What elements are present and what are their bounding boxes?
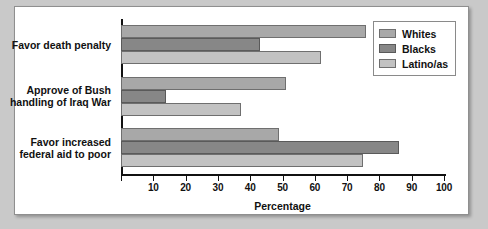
category-label-line: handling of Iraq War: [0, 96, 111, 108]
x-axis-line: [121, 174, 446, 176]
bar-blacks: [121, 38, 260, 51]
x-tick-label-90: 90: [397, 182, 427, 193]
bar-whites: [121, 77, 286, 90]
legend-label: Blacks: [402, 43, 436, 55]
x-tick-90: [412, 176, 413, 181]
category-label-line: Favor increased: [0, 136, 111, 148]
x-tick-60: [315, 176, 316, 181]
legend-swatch-icon: [379, 29, 396, 38]
x-tick-label-80: 80: [364, 182, 394, 193]
bar-blacks: [121, 90, 166, 103]
bar-blacks: [121, 141, 399, 154]
x-axis-title: Percentage: [121, 200, 444, 212]
legend-label: Whites: [402, 28, 436, 40]
bar-latino-as: [121, 154, 363, 167]
legend-item: Whites: [379, 26, 448, 41]
x-tick-30: [218, 176, 219, 181]
bar-whites: [121, 25, 366, 38]
bar-group: [121, 77, 444, 116]
x-tick-80: [379, 176, 380, 181]
bar-latino-as: [121, 51, 321, 64]
category-label: Approve of Bushhandling of Iraq War: [0, 84, 111, 108]
x-tick-label-100: 100: [429, 182, 459, 193]
x-tick-0: [121, 176, 122, 181]
x-tick-50: [283, 176, 284, 181]
x-tick-100: [444, 176, 445, 181]
x-tick-40: [250, 176, 251, 181]
x-tick-label-40: 40: [235, 182, 265, 193]
legend-item: Blacks: [379, 41, 448, 56]
legend-item: Latino/as: [379, 56, 448, 71]
bar-whites: [121, 128, 279, 141]
category-label-line: federal aid to poor: [0, 148, 111, 160]
legend-swatch-icon: [379, 59, 396, 68]
chart-legend: WhitesBlacksLatino/as: [373, 21, 456, 76]
x-tick-label-30: 30: [203, 182, 233, 193]
x-tick-label-70: 70: [332, 182, 362, 193]
legend-swatch-icon: [379, 44, 396, 53]
x-tick-70: [347, 176, 348, 181]
x-tick-label-60: 60: [300, 182, 330, 193]
chart-figure: 102030405060708090100 Percentage Favor d…: [14, 6, 469, 215]
x-tick-label-50: 50: [268, 182, 298, 193]
bar-latino-as: [121, 103, 241, 116]
bar-group: [121, 128, 444, 167]
category-label: Favor death penalty: [0, 39, 111, 51]
category-label: Favor increasedfederal aid to poor: [0, 136, 111, 160]
category-label-line: Favor death penalty: [0, 39, 111, 51]
category-label-line: Approve of Bush: [0, 84, 111, 96]
x-tick-20: [186, 176, 187, 181]
x-tick-label-20: 20: [171, 182, 201, 193]
x-tick-label-10: 10: [138, 182, 168, 193]
x-tick-10: [153, 176, 154, 181]
legend-label: Latino/as: [402, 58, 448, 70]
